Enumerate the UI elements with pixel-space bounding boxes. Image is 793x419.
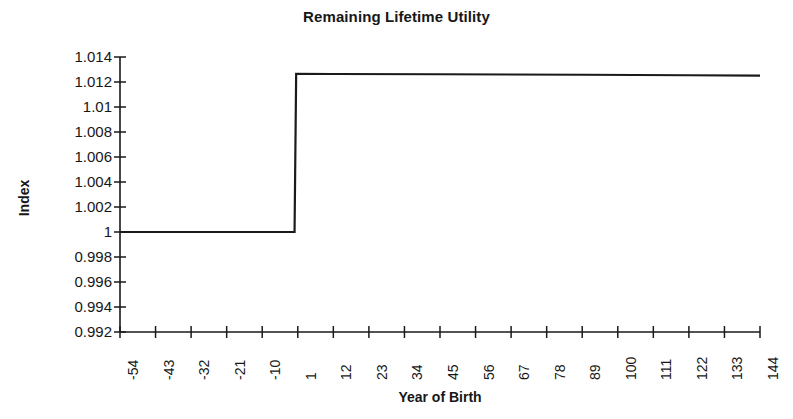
x-tick-label: -43 [162, 360, 176, 380]
y-tick-label: 1.004 [8, 174, 112, 190]
x-tick-label: 122 [695, 357, 709, 380]
x-tick-label: 144 [766, 357, 780, 380]
data-line [120, 74, 760, 232]
y-tick-label: 0.992 [8, 324, 112, 340]
y-tick-label: 1 [8, 224, 112, 240]
x-tick-label: -10 [268, 360, 282, 380]
axes-group [120, 57, 760, 332]
x-tick-label: 111 [659, 359, 673, 380]
x-tick-label: 1 [304, 372, 318, 380]
x-tick-label: -32 [197, 360, 211, 380]
y-tick-label: 1.006 [8, 149, 112, 165]
y-tick-label: 1.014 [8, 49, 112, 65]
x-tick-label: -54 [126, 360, 140, 380]
x-tick-label: 67 [517, 364, 531, 380]
plot-area [0, 0, 793, 419]
x-tick-label: 34 [410, 364, 424, 380]
y-tick-label: 1.002 [8, 199, 112, 215]
x-tick-label: 78 [553, 364, 567, 380]
x-tick-label: 23 [375, 364, 389, 380]
y-tick-label: 0.994 [8, 299, 112, 315]
x-tick-label: 89 [588, 364, 602, 380]
y-tick-label: 1.01 [8, 99, 112, 115]
x-tick-label: 133 [730, 357, 744, 380]
y-tick-label: 1.012 [8, 74, 112, 90]
x-tick-label: 100 [624, 357, 638, 380]
x-tick-label: 12 [339, 364, 353, 380]
chart-figure: Remaining Lifetime Utility Index Year of… [0, 0, 793, 419]
x-tick-label: -21 [233, 360, 247, 380]
y-tick-label: 0.998 [8, 249, 112, 265]
y-tick-label: 1.008 [8, 124, 112, 140]
x-tick-label: 56 [482, 364, 496, 380]
y-tick-label: 0.996 [8, 274, 112, 290]
data-series-group [120, 74, 760, 232]
tick-marks-group [114, 57, 760, 338]
x-tick-label: 45 [446, 364, 460, 380]
